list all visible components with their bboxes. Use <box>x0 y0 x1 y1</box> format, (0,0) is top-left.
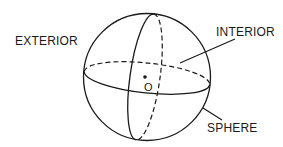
center-label: O <box>144 81 153 93</box>
interior-label: INTERIOR <box>216 26 275 38</box>
meridian-front-solid <box>121 12 154 140</box>
meridian-back-dashed <box>136 14 169 142</box>
center-point <box>143 75 147 79</box>
sphere-outline <box>84 14 211 141</box>
exterior-label: EXTERIOR <box>15 35 78 47</box>
sphere-diagram: EXTERIOR INTERIOR SPHERE O <box>0 0 283 147</box>
sphere-label: SPHERE <box>207 122 258 134</box>
sphere-leader-line <box>203 108 222 120</box>
